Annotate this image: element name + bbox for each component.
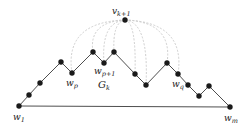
node-v_k+1 <box>122 17 127 22</box>
w1-label: w1 <box>13 112 25 124</box>
node-n11 <box>164 60 169 65</box>
node-n14 <box>196 93 201 98</box>
dashed-arc <box>92 20 125 52</box>
graph-diagram: vk+1 w1 wp wp+1 wq wm Gk <box>0 0 249 126</box>
node-n6 <box>90 49 95 54</box>
node-n3 <box>37 80 42 85</box>
node-n10 <box>143 82 148 87</box>
node-w1 <box>16 103 21 108</box>
base-edge <box>19 106 230 107</box>
node-n4 <box>58 59 63 64</box>
dashed-arc <box>114 20 125 52</box>
dashed-arc <box>125 20 179 74</box>
node-n15 <box>206 83 211 88</box>
dashed-arc <box>125 20 135 74</box>
wm-label: wm <box>224 113 238 125</box>
wq-label: wq <box>172 79 184 91</box>
outer-path-edges <box>19 52 230 107</box>
node-wq <box>175 71 180 76</box>
dashed-arcs <box>71 20 179 85</box>
boundary-path <box>19 52 230 107</box>
node-wm <box>227 104 232 109</box>
dashed-arc <box>125 20 168 63</box>
node-wp <box>69 70 74 75</box>
region-label-gk: Gk <box>98 79 110 92</box>
node-n8 <box>111 49 116 54</box>
node-n13 <box>185 82 190 87</box>
wp-label: wp <box>66 78 79 90</box>
node-wp+1 <box>101 60 106 65</box>
node-n9 <box>132 71 137 76</box>
wp1-label: wp+1 <box>94 66 115 78</box>
apex-label: vk+1 <box>112 6 131 18</box>
node-n2 <box>26 92 31 97</box>
